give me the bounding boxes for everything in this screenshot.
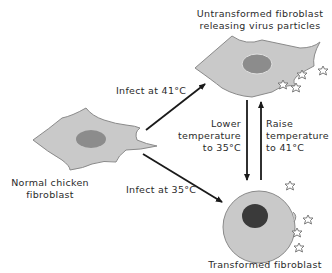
normal-label-line1: Normal chicken	[0, 177, 100, 189]
lower-label-line2: temperature	[168, 130, 241, 142]
lower-temperature-label: Lower temperature to 35°C	[168, 118, 241, 154]
lower-label-line3: to 35°C	[168, 142, 241, 154]
nucleus-icon	[76, 130, 106, 148]
transformed-fibroblast-cell	[223, 191, 296, 263]
raise-label-line2: temperature	[266, 130, 329, 142]
infect-41-label: Infect at 41°C	[116, 85, 186, 97]
raise-temperature-label: Raise temperature to 41°C	[266, 118, 329, 154]
untransformed-label: Untransformed fibroblast releasing virus…	[195, 8, 325, 32]
untransformed-label-line1: Untransformed fibroblast	[195, 8, 325, 20]
raise-label-line1: Raise	[266, 118, 329, 130]
nucleus-icon	[242, 204, 268, 228]
transformed-label: Transformed fibroblast	[200, 259, 330, 271]
nucleus-icon	[242, 54, 272, 74]
raise-label-line3: to 41°C	[266, 142, 329, 154]
normal-fibroblast-cell	[33, 108, 157, 170]
normal-label: Normal chicken fibroblast	[0, 177, 100, 201]
infect-35-label: Infect at 35°C	[126, 184, 196, 196]
normal-label-line2: fibroblast	[0, 189, 100, 201]
lower-label-line1: Lower	[168, 118, 241, 130]
untransformed-fibroblast-cell	[195, 36, 320, 97]
untransformed-label-line2: releasing virus particles	[195, 20, 325, 32]
